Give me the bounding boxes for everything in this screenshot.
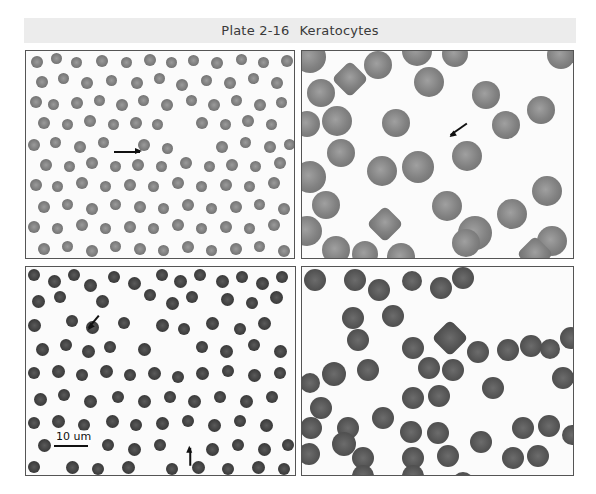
red-blood-cell xyxy=(196,223,207,234)
red-blood-cell xyxy=(497,199,527,229)
red-blood-cell xyxy=(62,119,73,130)
red-blood-cell xyxy=(94,95,105,106)
red-blood-cell xyxy=(268,219,280,231)
red-blood-cell xyxy=(430,277,452,299)
red-blood-cell xyxy=(144,289,156,301)
red-blood-cell xyxy=(312,191,340,219)
red-blood-cell xyxy=(130,419,142,431)
red-blood-cell xyxy=(418,357,440,379)
red-blood-cell xyxy=(368,279,390,301)
red-blood-cell xyxy=(110,199,121,210)
red-blood-cell xyxy=(50,137,61,148)
red-blood-cell xyxy=(64,161,75,172)
red-blood-cell xyxy=(220,345,233,358)
red-blood-cell xyxy=(236,271,248,283)
red-blood-cell xyxy=(156,269,168,281)
red-blood-cell xyxy=(84,395,97,408)
red-blood-cell xyxy=(364,51,392,79)
red-blood-cell xyxy=(234,323,246,335)
micrograph-top-right xyxy=(301,50,574,259)
red-blood-cell xyxy=(132,159,144,171)
red-blood-cell xyxy=(206,443,219,456)
red-blood-cell xyxy=(244,223,255,234)
red-blood-cell xyxy=(52,415,65,428)
keratocyte-cell xyxy=(332,61,369,98)
red-blood-cell xyxy=(48,275,61,288)
red-blood-cell xyxy=(81,77,93,89)
red-blood-cell xyxy=(66,461,79,474)
red-blood-cell xyxy=(182,241,194,253)
red-blood-cell xyxy=(387,243,415,259)
red-blood-cell xyxy=(527,445,549,467)
red-blood-cell xyxy=(116,99,128,111)
red-blood-cell xyxy=(276,97,287,108)
red-blood-cell xyxy=(134,243,146,255)
red-blood-cell xyxy=(274,367,286,379)
red-blood-cell xyxy=(66,315,78,327)
red-blood-cell xyxy=(232,439,244,451)
red-blood-cell xyxy=(154,73,165,84)
red-blood-cell xyxy=(452,472,474,476)
red-blood-cell xyxy=(124,221,136,233)
red-blood-cell xyxy=(248,73,259,84)
micrograph-bottom-left: 10 um xyxy=(25,266,296,476)
red-blood-cell xyxy=(138,95,149,106)
red-blood-cell xyxy=(208,99,220,111)
red-blood-cell xyxy=(547,50,574,69)
red-blood-cell xyxy=(86,203,98,215)
red-blood-cell xyxy=(108,119,119,130)
red-blood-cell xyxy=(28,367,40,379)
red-blood-cell xyxy=(100,181,111,192)
red-blood-cell xyxy=(196,181,207,192)
red-blood-cell xyxy=(284,139,295,150)
red-blood-cell xyxy=(196,341,208,353)
red-blood-cell xyxy=(222,463,234,475)
red-blood-cell xyxy=(268,177,280,189)
keratocyte-cell xyxy=(432,320,469,357)
red-blood-cell xyxy=(188,55,199,66)
red-blood-cell xyxy=(402,151,434,183)
red-blood-cell xyxy=(166,297,179,310)
red-blood-cell xyxy=(30,96,42,108)
red-blood-cell xyxy=(352,241,378,259)
red-blood-cell xyxy=(301,417,322,439)
red-blood-cell xyxy=(110,161,121,172)
red-blood-cell xyxy=(216,141,228,153)
red-blood-cell xyxy=(472,81,500,109)
red-blood-cell xyxy=(58,389,70,401)
red-blood-cell xyxy=(220,221,232,233)
red-blood-cell xyxy=(540,339,560,359)
red-blood-cell xyxy=(162,143,173,154)
red-blood-cell xyxy=(38,439,51,452)
red-blood-cell xyxy=(86,245,98,257)
red-blood-cell xyxy=(470,431,492,453)
red-blood-cell xyxy=(166,463,178,475)
plate-header-band: Plate 2-16Keratocytes xyxy=(24,18,576,43)
red-blood-cell xyxy=(301,161,326,193)
red-blood-cell xyxy=(186,95,197,106)
red-blood-cell xyxy=(467,341,489,363)
red-blood-cell xyxy=(102,439,114,451)
red-blood-cell xyxy=(402,50,432,66)
red-blood-cell xyxy=(148,367,161,380)
red-blood-cell xyxy=(211,57,223,69)
red-blood-cell xyxy=(342,307,364,329)
red-blood-cell xyxy=(256,277,269,290)
red-blood-cell xyxy=(327,139,355,167)
red-blood-cell xyxy=(266,119,277,130)
red-blood-cell xyxy=(252,461,265,474)
red-blood-cell xyxy=(52,223,63,234)
red-blood-cell xyxy=(254,199,265,210)
red-blood-cell xyxy=(304,269,326,291)
red-blood-cell xyxy=(220,119,231,130)
red-blood-cell xyxy=(301,111,320,137)
red-blood-cell xyxy=(442,359,464,381)
red-blood-cell xyxy=(246,297,258,309)
red-blood-cell xyxy=(236,54,247,65)
red-blood-cell xyxy=(372,407,394,429)
red-blood-cell xyxy=(452,267,474,289)
red-blood-cell xyxy=(156,161,167,172)
red-blood-cell xyxy=(206,245,217,256)
red-blood-cell xyxy=(357,359,379,381)
red-blood-cell xyxy=(226,159,238,171)
